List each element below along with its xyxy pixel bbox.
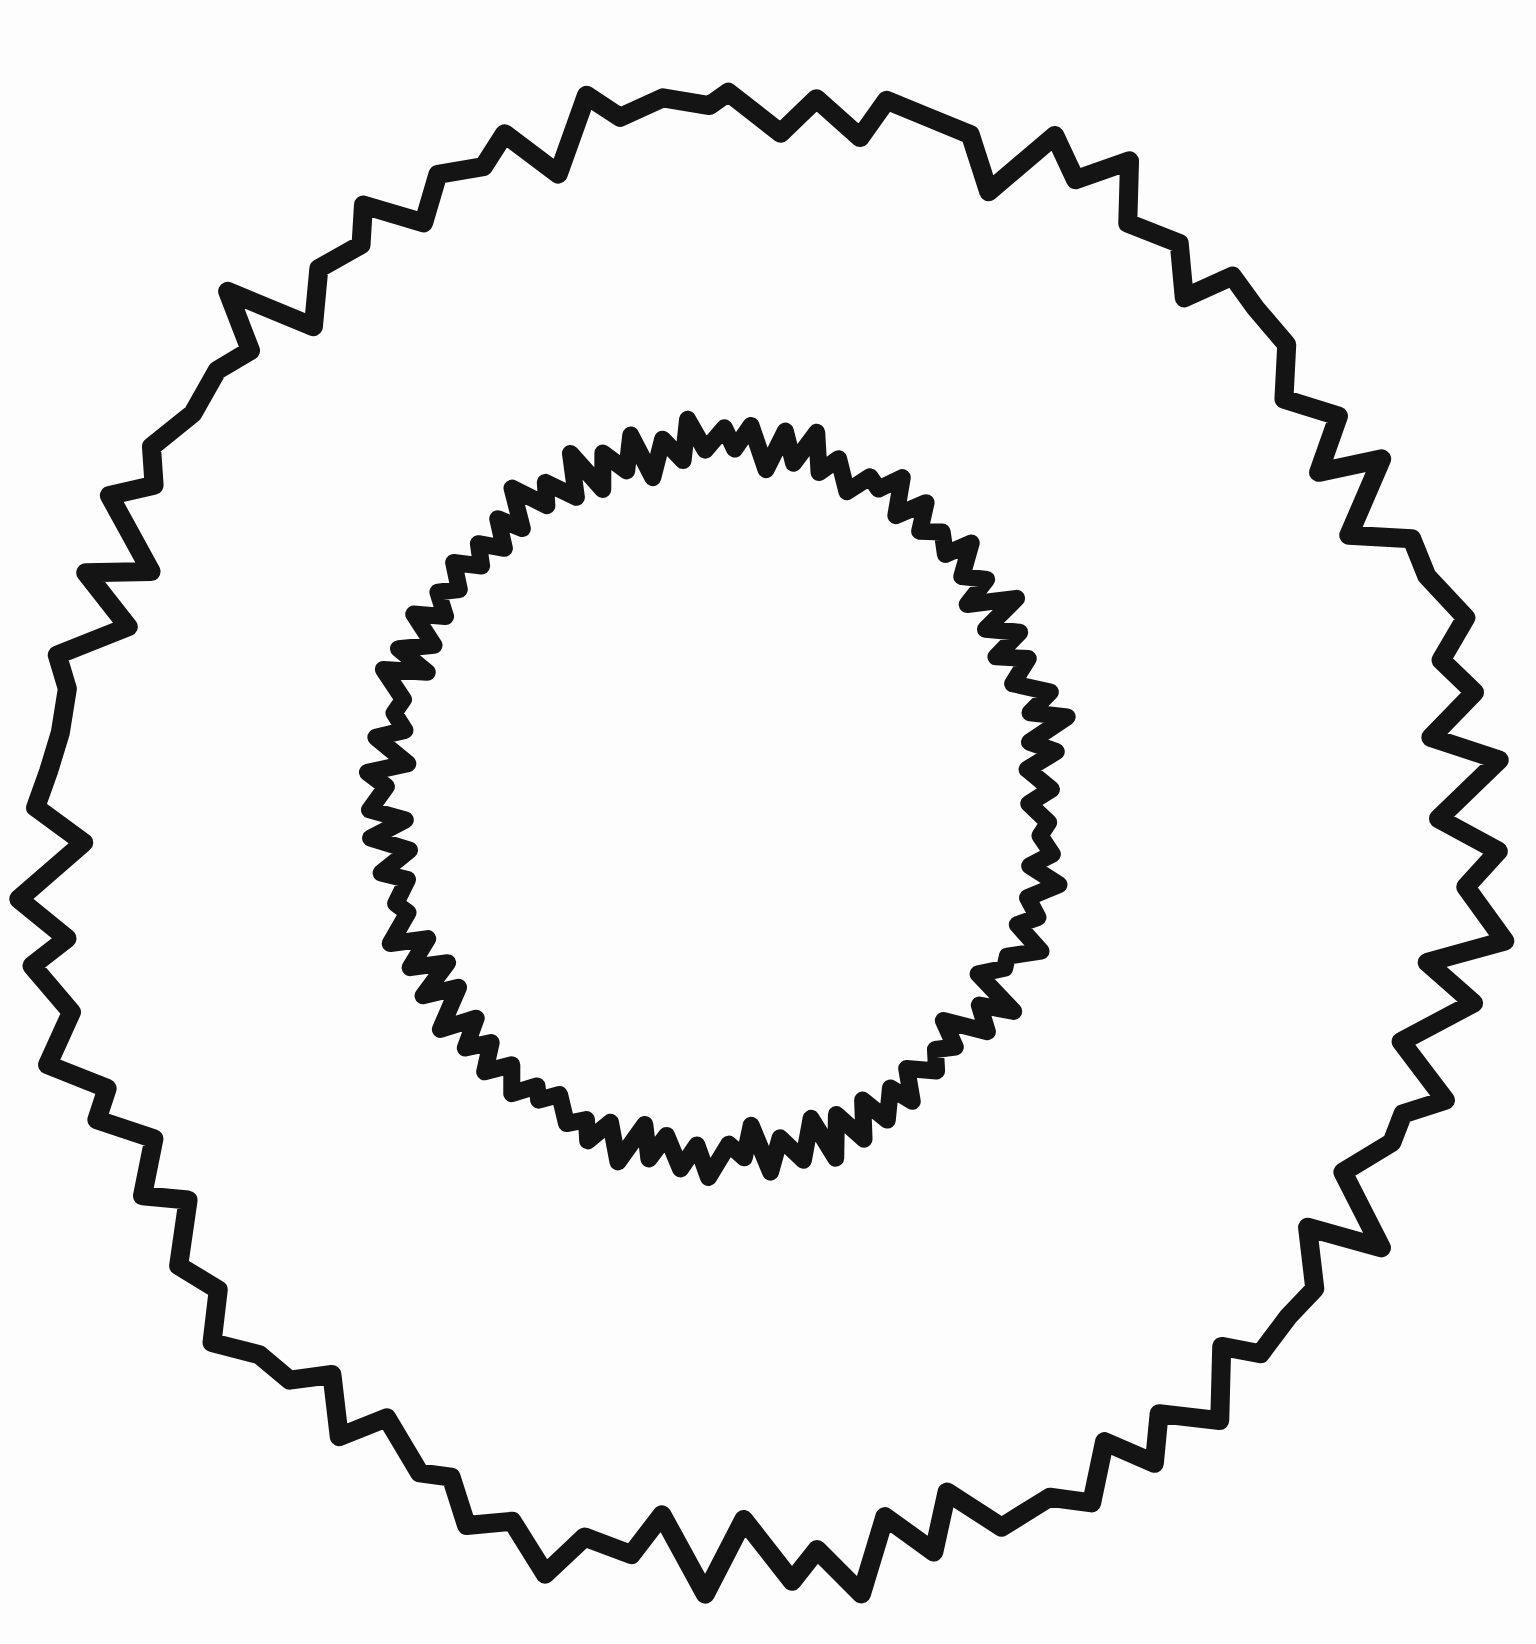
zigzag-rings-drawing: Concentric Zigzag Rings Two concentric c… (0, 0, 1536, 1644)
paper-background (0, 0, 1536, 1644)
artboard: Concentric Zigzag Rings Two concentric c… (0, 0, 1536, 1644)
